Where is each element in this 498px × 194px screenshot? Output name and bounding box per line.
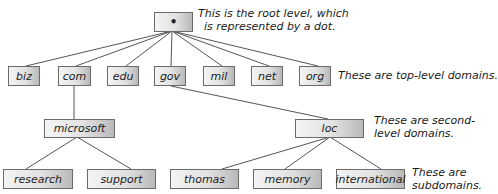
subdomain-node-support: support — [87, 169, 156, 189]
tld-label: org — [306, 71, 324, 82]
subdomain-label: international — [335, 174, 405, 185]
subdomain-node-thomas: thomas — [170, 169, 239, 189]
subdomain-node-international: international — [336, 169, 405, 189]
root-dot-label: • — [170, 16, 178, 28]
tld-label: net — [258, 71, 276, 82]
sld-note-line2: level domains. — [374, 127, 475, 140]
root-note-line2: is represented by a dot. — [198, 20, 349, 33]
root-note: This is the root level, which is represe… — [198, 7, 349, 33]
subdomain-label: memory — [265, 174, 311, 185]
subdomain-label: support — [100, 174, 142, 185]
tld-label: mil — [211, 71, 228, 82]
subdomain-note-line1: These are — [412, 166, 482, 179]
tld-node-mil: mil — [203, 66, 235, 86]
sld-label: loc — [322, 123, 338, 134]
tld-node-biz: biz — [8, 66, 40, 86]
subdomain-label: research — [14, 174, 62, 185]
tld-node-edu: edu — [107, 66, 139, 86]
tld-label: gov — [160, 71, 180, 82]
tld-note: These are top-level domains. — [338, 69, 498, 82]
tld-node-gov: gov — [154, 66, 186, 86]
subdomain-node-research: research — [3, 169, 73, 189]
root-note-line1: This is the root level, which — [198, 7, 349, 20]
sld-label: microsoft — [54, 123, 106, 134]
sld-note-line1: These are second- — [374, 114, 475, 127]
tld-node-com: com — [58, 66, 91, 86]
tld-node-org: org — [299, 66, 331, 86]
sld-note: These are second- level domains. — [374, 114, 475, 140]
sld-node-microsoft: microsoft — [44, 119, 115, 138]
root-node: • — [154, 12, 193, 32]
tld-label: com — [63, 71, 87, 82]
sld-node-loc: loc — [295, 119, 364, 138]
tld-node-net: net — [251, 66, 283, 86]
subdomain-node-memory: memory — [253, 169, 322, 189]
subdomain-note-line2: subdomains. — [412, 179, 482, 192]
tld-label: biz — [16, 71, 32, 82]
tld-label: edu — [113, 71, 134, 82]
subdomain-note: These are subdomains. — [412, 166, 482, 192]
subdomain-label: thomas — [184, 174, 225, 185]
